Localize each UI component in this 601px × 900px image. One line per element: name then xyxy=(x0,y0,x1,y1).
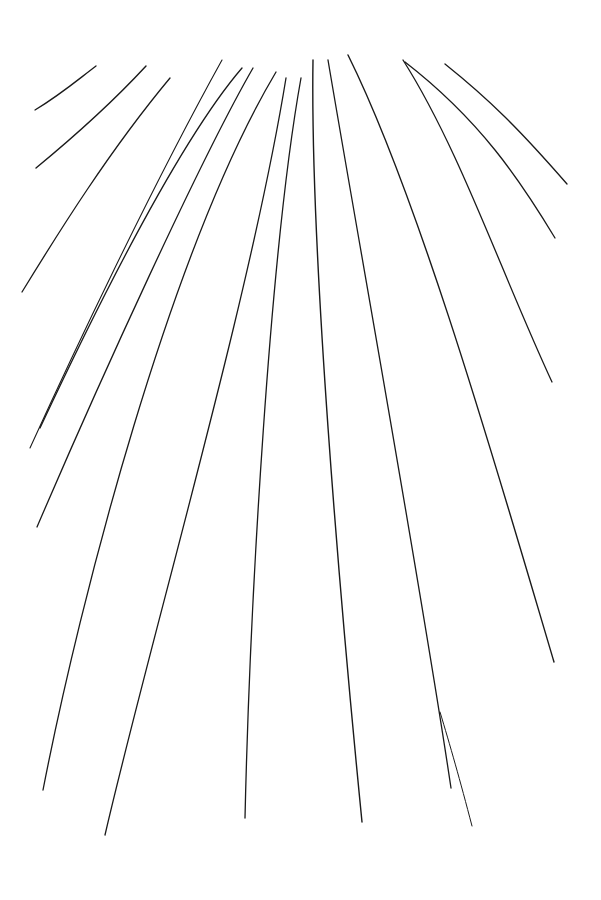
ink-stroke xyxy=(43,72,276,790)
ink-stroke xyxy=(22,78,170,292)
ink-stroke xyxy=(35,66,96,110)
ink-stroke xyxy=(405,62,555,238)
ink-stroke xyxy=(440,712,472,826)
radiating-lines-sketch xyxy=(0,0,601,900)
ink-stroke xyxy=(328,60,451,788)
ink-stroke xyxy=(37,68,253,527)
ink-stroke xyxy=(445,64,567,184)
ink-stroke xyxy=(105,78,286,835)
ink-stroke xyxy=(245,78,301,818)
ink-stroke xyxy=(36,66,146,168)
ink-stroke xyxy=(40,68,242,428)
ink-stroke xyxy=(313,60,362,822)
ink-stroke xyxy=(348,55,554,662)
ink-stroke xyxy=(403,60,552,382)
